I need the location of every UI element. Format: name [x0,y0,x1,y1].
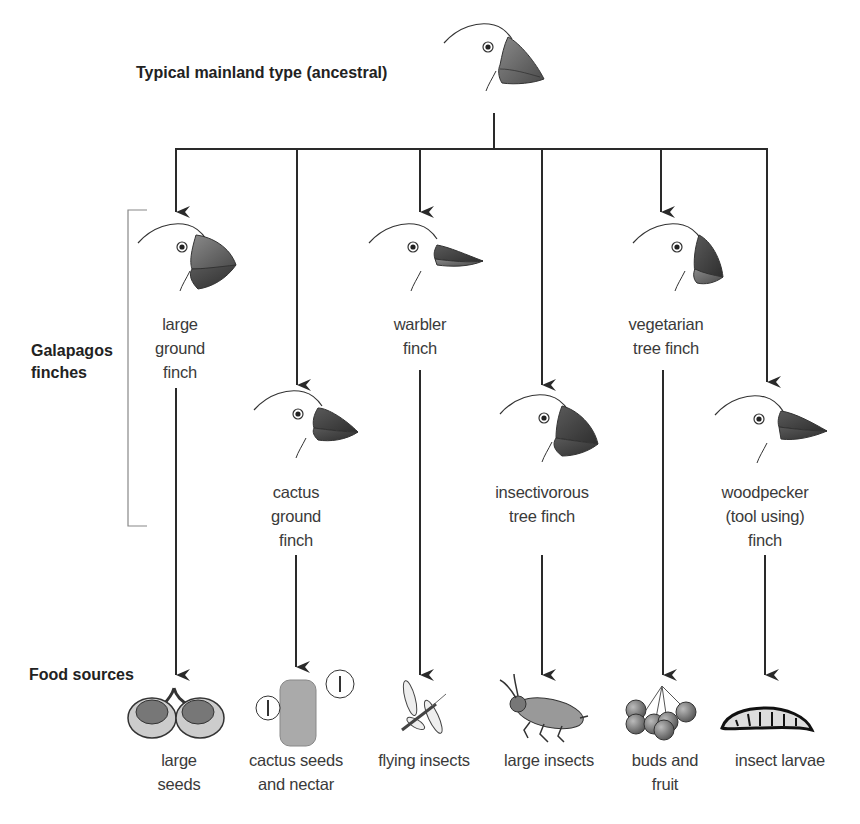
large-ground-finch-icon [138,224,236,291]
dragonfly-icon [401,679,446,735]
vegetarian-tree-finch-icon [633,224,723,291]
food-flying-insects: flying insects [378,748,470,772]
larva-icon [722,708,812,730]
ancestral-finch-icon [444,24,544,91]
insectivorous-tree-finch-icon [500,395,598,462]
tree-connectors [175,113,767,675]
food-insect-larvae: insect larvae [735,748,825,772]
seeds-icon [128,688,224,738]
finch-name-large-ground: large ground finch [155,312,205,384]
berries-icon [626,686,696,740]
galapagos-finches-label: Galapagos finches [31,340,113,384]
food-buds-and-fruit: buds and fruit [632,748,698,796]
food-large-seeds: large seeds [157,748,200,796]
food-sources-label: Food sources [29,664,134,686]
beetle-icon [500,674,588,742]
finch-name-cactus-ground: cactus ground finch [271,480,321,552]
food-cactus-seeds-nectar: cactus seeds and nectar [249,748,343,796]
warbler-finch-icon [369,224,483,291]
galapagos-bracket [128,210,147,526]
finch-name-insectivorous-tree: insectivorous tree finch [495,480,589,528]
finch-name-woodpecker: woodpecker (tool using) finch [722,480,809,552]
finch-name-warbler: warbler finch [394,312,447,360]
diagram-graphics [0,0,860,824]
ancestral-type-label: Typical mainland type (ancestral) [136,62,387,84]
finch-name-vegetarian-tree: vegetarian tree finch [628,312,703,360]
finch-adaptive-radiation-diagram: Typical mainland type (ancestral) Galapa… [0,0,860,824]
cactus-ground-finch-icon [254,391,358,458]
cactus-flower-icon [256,670,354,746]
food-large-insects: large insects [504,748,594,772]
woodpecker-finch-icon [715,396,827,463]
